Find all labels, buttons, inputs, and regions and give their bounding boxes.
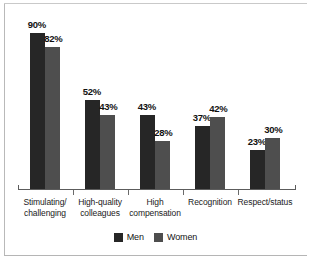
bar-value-label: 30% — [264, 124, 282, 135]
bar-value-label: 43% — [99, 101, 117, 112]
bar-group-bars: 43%28% — [140, 16, 170, 190]
bar-women[interactable]: 30% — [265, 138, 280, 190]
bar-men[interactable]: 23% — [250, 150, 265, 190]
category-label: Recognition — [180, 197, 240, 208]
x-axis-tick — [183, 190, 184, 195]
x-axis-tick — [128, 190, 129, 195]
x-axis-line — [18, 189, 296, 190]
legend-label-women: Women — [167, 232, 197, 242]
legend-swatch-men-icon — [114, 233, 123, 242]
bar-group-bars: 52%43% — [85, 16, 115, 190]
chart-legend: Men Women — [0, 232, 311, 242]
category-label: High compensation — [125, 197, 185, 218]
bar-group-bars: 23%30% — [250, 16, 280, 190]
bar-men[interactable]: 52% — [85, 100, 100, 190]
bar-value-label: 28% — [154, 127, 172, 138]
legend-item-men[interactable]: Men — [114, 232, 144, 242]
bar-men[interactable]: 43% — [140, 115, 155, 190]
bar-women[interactable]: 43% — [100, 115, 115, 190]
x-axis-tick — [73, 190, 74, 195]
figure-border-top — [4, 3, 307, 4]
category-label: High-quality colleagues — [70, 197, 130, 218]
bar-value-label: 23% — [248, 136, 266, 147]
bar-value-label: 52% — [83, 86, 101, 97]
legend-swatch-women-icon — [154, 233, 163, 242]
category-label: Stimulating/ challenging — [15, 197, 75, 218]
bar-value-label: 82% — [44, 33, 62, 44]
bar-value-label: 43% — [138, 101, 156, 112]
plot-area: 90%82%52%43%43%28%37%42%23%30% — [18, 16, 300, 190]
bar-men[interactable]: 37% — [195, 126, 210, 190]
bar-value-label: 42% — [209, 103, 227, 114]
figure-border-bottom — [4, 255, 307, 256]
legend-item-women[interactable]: Women — [154, 232, 197, 242]
bar-chart-figure: 90%82%52%43%43%28%37%42%23%30% Stimulati… — [0, 0, 311, 265]
bar-group-bars: 90%82% — [30, 16, 60, 190]
bar-group-bars: 37%42% — [195, 16, 225, 190]
bar-women[interactable]: 82% — [45, 47, 60, 190]
bar-women[interactable]: 28% — [155, 141, 170, 190]
category-label: Respect/status — [235, 197, 295, 208]
bar-women[interactable]: 42% — [210, 117, 225, 190]
bar-value-label: 90% — [28, 19, 46, 30]
bar-men[interactable]: 90% — [30, 33, 45, 190]
x-axis-end-cap-right — [295, 185, 296, 190]
figure-border-left — [4, 3, 5, 255]
legend-label-men: Men — [127, 232, 144, 242]
x-axis-end-cap-left — [18, 185, 19, 190]
x-axis-tick — [238, 190, 239, 195]
